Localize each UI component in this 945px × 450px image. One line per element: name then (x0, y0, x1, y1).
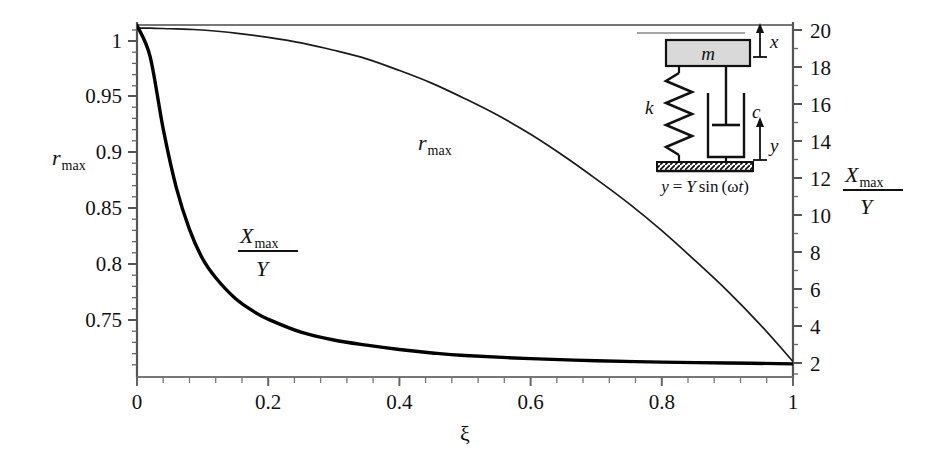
eq-equals: = (673, 177, 683, 196)
left-axis-title: rmax (52, 145, 86, 173)
left-tick-label: 0.8 (96, 252, 122, 276)
right-tick-label: 8 (810, 241, 821, 265)
x-tick-label: 0.2 (255, 390, 281, 414)
x-tick-label: 0.8 (649, 390, 675, 414)
inset-y-arrow (753, 117, 767, 160)
right-tick-label: 18 (810, 56, 831, 80)
left-tick-label: 0.85 (85, 196, 122, 220)
right-tick-label: 14 (810, 130, 832, 154)
curve-label-numerator-main: X (239, 223, 255, 248)
plot-frame (137, 22, 793, 378)
curve-label-rmax-main: r (418, 130, 427, 155)
inset-ground-base (657, 162, 753, 171)
left-tick-label: 0.75 (85, 308, 122, 332)
x-tick-label: 0 (132, 390, 143, 414)
eq-sin: sin (699, 177, 719, 196)
right-axis-title: Xmax Y (843, 162, 903, 219)
svg-text:y=Ysin(ωt): y=Ysin(ωt) (659, 177, 749, 196)
right-axis-title-numerator-main: X (844, 162, 860, 187)
inset-x-label: x (769, 31, 779, 52)
inset-spring (666, 66, 692, 162)
inset-diagram: m x k c y (637, 23, 779, 196)
svg-text:Xmax: Xmax (844, 162, 884, 190)
inset-y-label: y (768, 135, 779, 156)
inset-base-equation: y=Ysin(ωt) (659, 177, 749, 196)
left-axis-major-ticks (128, 41, 137, 320)
right-tick-label: 20 (810, 19, 831, 43)
right-tick-label: 10 (810, 204, 831, 228)
right-tick-label: 16 (810, 93, 831, 117)
left-axis-tick-labels: 1 0.95 0.9 0.85 0.8 0.75 (85, 29, 122, 332)
curve-label-numerator-sub: max (254, 236, 278, 251)
x-axis-tick-labels: 0 0.2 0.4 0.6 0.8 1 (132, 390, 799, 414)
right-tick-label: 2 (810, 352, 821, 376)
left-tick-label: 0.95 (85, 84, 122, 108)
eq-omega: ω (727, 177, 738, 196)
right-axis-title-denominator: Y (860, 194, 875, 219)
eq-Y: Y (686, 177, 697, 196)
right-tick-label: 12 (810, 167, 831, 191)
figure-container: 1 0.95 0.9 0.85 0.8 0.75 rmax 20 18 16 (0, 0, 945, 450)
inset-damper (708, 66, 744, 163)
eq-y: y (659, 177, 669, 196)
x-tick-label: 1 (788, 390, 799, 414)
inset-x-arrow (753, 23, 767, 57)
svg-text:rmax: rmax (52, 145, 86, 173)
curve-label-rmax: rmax (418, 130, 452, 158)
curve-label-rmax-sub: max (428, 143, 452, 158)
eq-close-paren: ) (743, 177, 749, 196)
right-axis-title-numerator-sub: max (859, 175, 883, 190)
x-axis-title: ξ (460, 421, 470, 446)
x-axis-major-ticks (137, 377, 793, 386)
x-tick-label: 0.4 (386, 390, 413, 414)
inset-mass-label: m (701, 43, 715, 64)
right-axis-tick-labels: 20 18 16 14 12 10 8 6 4 2 (810, 19, 832, 376)
chart-svg: 1 0.95 0.9 0.85 0.8 0.75 rmax 20 18 16 (0, 0, 945, 450)
curve-label-xmax-over-y: Xmax Y (238, 223, 298, 281)
svg-text:rmax: rmax (418, 130, 452, 158)
left-tick-label: 1 (112, 29, 123, 53)
right-tick-label: 4 (810, 315, 821, 339)
left-tick-label: 0.9 (96, 140, 122, 164)
x-tick-label: 0.6 (517, 390, 543, 414)
left-axis-title-main: r (52, 145, 61, 170)
svg-text:Xmax: Xmax (239, 223, 279, 251)
inset-spring-label: k (645, 97, 654, 118)
right-tick-label: 6 (810, 278, 821, 302)
curve-label-denominator: Y (256, 256, 271, 281)
left-axis-title-sub: max (62, 158, 86, 173)
